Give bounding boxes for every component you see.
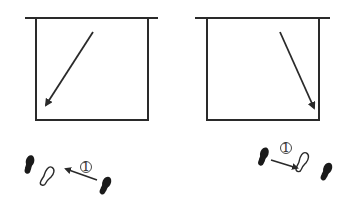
outline-footprint-icon [294, 151, 310, 173]
left-court-panel [25, 18, 158, 120]
right-direction-arrow [280, 32, 314, 108]
left-direction-arrow [46, 32, 93, 105]
right-step-label: 1 [281, 140, 292, 155]
solid-footprint-icon [318, 161, 334, 182]
right-court-panel [195, 18, 330, 120]
right-footwork: 1 [256, 140, 334, 182]
footwork-diagram: 1 1 [0, 0, 350, 210]
solid-footprint-icon [23, 154, 36, 175]
outline-footprint-icon [39, 166, 56, 188]
solid-footprint-icon [97, 175, 113, 196]
left-step-number: 1 [82, 159, 90, 174]
left-footwork: 1 [23, 154, 113, 196]
solid-footprint-icon [256, 146, 270, 167]
right-step-number: 1 [282, 140, 290, 155]
left-step-label: 1 [81, 159, 92, 174]
right-court-box [207, 18, 319, 120]
right-step-arrow [271, 160, 297, 168]
